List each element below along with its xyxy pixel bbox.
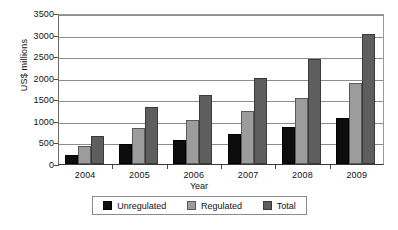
bar-total-2008 xyxy=(308,59,321,164)
legend-item-regulated: Regulated xyxy=(187,201,242,211)
bar-total-2004 xyxy=(91,136,104,164)
legend-item-unregulated: Unregulated xyxy=(103,201,166,211)
y-axis-tick-label: 3000 xyxy=(14,31,54,41)
gridline xyxy=(59,15,383,16)
x-axis-tick-label-2009: 2009 xyxy=(334,170,380,180)
y-axis-tick-label: 1000 xyxy=(14,117,54,127)
y-axis-tick-label: 500 xyxy=(14,138,54,148)
y-axis-tick-label: 2500 xyxy=(14,52,54,62)
x-axis-tick-mark xyxy=(275,165,276,169)
bar-unregulated-2007 xyxy=(228,134,241,164)
bar-unregulated-2009 xyxy=(336,118,349,164)
legend-label-total: Total xyxy=(277,201,296,211)
bar-regulated-2006 xyxy=(186,120,199,164)
bar-total-2005 xyxy=(145,107,158,164)
bar-unregulated-2008 xyxy=(282,127,295,164)
x-axis-tick-label-2006: 2006 xyxy=(171,170,217,180)
x-axis-tick-label-2005: 2005 xyxy=(117,170,163,180)
bar-group-2004 xyxy=(65,15,104,164)
gridline xyxy=(59,37,383,38)
bar-unregulated-2006 xyxy=(173,140,186,164)
x-axis-title: Year xyxy=(0,181,398,191)
legend-label-regulated: Regulated xyxy=(201,201,242,211)
bar-chart: US$ millions 050010001500200025003000350… xyxy=(0,0,398,230)
y-axis-tick-label: 3500 xyxy=(14,9,54,19)
bar-regulated-2008 xyxy=(295,98,308,164)
bar-regulated-2009 xyxy=(349,83,362,164)
y-axis-tick-label: 2000 xyxy=(14,74,54,84)
bar-regulated-2004 xyxy=(78,146,91,164)
x-axis-tick-mark xyxy=(330,165,331,169)
bar-group-2009 xyxy=(336,15,375,164)
bar-group-2006 xyxy=(173,15,212,164)
bar-regulated-2005 xyxy=(132,128,145,164)
bar-total-2009 xyxy=(362,34,375,164)
plot-area xyxy=(58,14,384,165)
legend-swatch-icon-unregulated xyxy=(103,201,112,210)
legend-item-total: Total xyxy=(263,201,296,211)
y-axis-tick-label: 0 xyxy=(14,160,54,170)
x-axis-tick-label-2004: 2004 xyxy=(62,170,108,180)
y-axis-title: US$ millions xyxy=(19,5,29,125)
x-axis-tick-mark xyxy=(112,165,113,169)
bar-regulated-2007 xyxy=(241,111,254,164)
bar-unregulated-2004 xyxy=(65,155,78,164)
legend-swatch-icon-total xyxy=(263,201,272,210)
legend-label-unregulated: Unregulated xyxy=(117,201,166,211)
gridline xyxy=(59,58,383,59)
bar-total-2006 xyxy=(199,95,212,164)
y-axis-tick-label: 1500 xyxy=(14,95,54,105)
gridline xyxy=(59,144,383,145)
x-axis-tick-mark xyxy=(167,165,168,169)
chart-legend: Unregulated Regulated Total xyxy=(92,196,307,215)
gridline xyxy=(59,101,383,102)
bar-group-2007 xyxy=(228,15,267,164)
gridline xyxy=(59,80,383,81)
x-axis-tick-label-2008: 2008 xyxy=(280,170,326,180)
bar-unregulated-2005 xyxy=(119,144,132,164)
bar-group-2008 xyxy=(282,15,321,164)
y-axis-tick-mark xyxy=(54,165,59,166)
bar-total-2007 xyxy=(254,78,267,164)
gridline xyxy=(59,123,383,124)
x-axis-tick-mark xyxy=(221,165,222,169)
bar-group-2005 xyxy=(119,15,158,164)
legend-swatch-icon-regulated xyxy=(187,201,196,210)
x-axis-tick-label-2007: 2007 xyxy=(225,170,271,180)
